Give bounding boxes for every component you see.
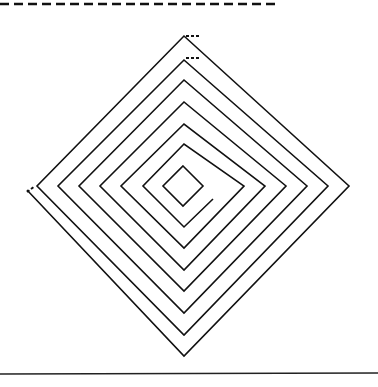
dashed-breaks [27, 36, 199, 192]
inner-diamond [163, 166, 203, 206]
bottom-rule [0, 373, 378, 374]
spiral-diagram [0, 0, 378, 387]
square-spiral [27, 36, 349, 356]
